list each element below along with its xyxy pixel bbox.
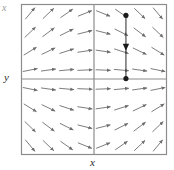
corner-mark-label: x <box>2 2 6 13</box>
slope-field-figure: x y x <box>0 0 174 170</box>
field-arrow <box>96 89 111 90</box>
x-axis-label: x <box>90 157 95 168</box>
direction-field-plot <box>0 0 174 170</box>
field-arrow <box>77 89 92 90</box>
trajectory-end-marker <box>123 76 128 81</box>
y-axis-label: y <box>4 72 9 83</box>
field-arrow <box>77 70 92 71</box>
field-arrow <box>96 70 111 71</box>
trajectory-start-marker <box>123 13 128 18</box>
